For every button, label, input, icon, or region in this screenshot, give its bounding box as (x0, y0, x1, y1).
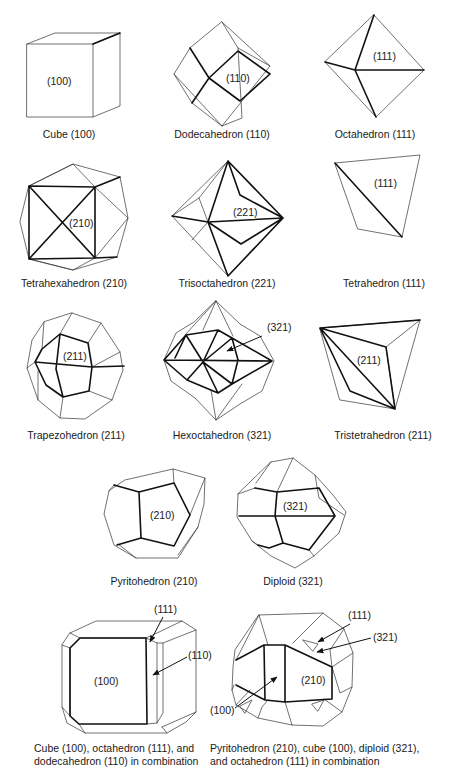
hexoctahedron-face-label: (321) (267, 321, 292, 333)
caption-combo-cube: Cube (100), octahedron (111), and dodeca… (34, 742, 198, 768)
combo-cube-edge-label: (110) (188, 649, 212, 661)
octahedron-drawing: (111) (325, 15, 424, 117)
caption-diploid: Diploid (321) (263, 575, 323, 588)
tetrahedron-face-label: (111) (374, 177, 397, 189)
diploid-drawing: (321) (237, 458, 346, 568)
tetrahedron-drawing: (111) (335, 155, 420, 237)
crystal-forms-diagram: (100) (110) (111) (210) (221) (111) (0, 0, 449, 772)
diploid-face-label: (321) (283, 500, 308, 512)
trisoctahedron-drawing: (221) (172, 161, 283, 276)
combo-pyrito-diploid-arrow (317, 638, 371, 652)
combo-pyrito-drawing: (210) (111) (321) (100) (210, 609, 398, 726)
hexoctahedron-drawing: (321) (164, 301, 292, 420)
caption-cube: Cube (100) (43, 128, 96, 141)
combo-pyrito-cube-arrow (235, 677, 277, 708)
combo-cube-drawing: (100) (111) (110) (62, 603, 212, 733)
caption-tetrahedron: Tetrahedron (111) (343, 277, 425, 290)
pyritohedron-face-label: (210) (150, 509, 175, 521)
combo-cube-corner-label: (111) (154, 603, 177, 615)
combo-cube-edge-arrow (153, 657, 187, 675)
octahedron-face-label: (111) (373, 50, 396, 62)
dodecahedron-drawing: (110) (174, 22, 270, 126)
caption-octahedron: Octahedron (111) (335, 128, 416, 141)
cube-drawing: (100) (27, 33, 120, 117)
trisoctahedron-face-label: (221) (233, 206, 258, 218)
caption-trisoctahedron: Trisoctahedron (221) (178, 277, 275, 290)
tristetrahedron-face-label: (211) (357, 354, 381, 366)
dodecahedron-face-label: (110) (226, 72, 250, 84)
caption-combo-pyrito-line-2: and octahedron (111) in combination (210, 755, 420, 768)
tetrahexahedron-drawing: (210) (20, 164, 128, 270)
trapezohedron-face-label: (211) (63, 350, 87, 362)
combo-pyrito-cube-label: (100) (210, 704, 235, 716)
caption-combo-pyrito: Pyritohedron (210), cube (100), diploid … (210, 742, 420, 768)
trapezohedron-drawing: (211) (27, 313, 124, 419)
caption-tristetrahedron: Tristetrahedron (211) (334, 429, 431, 442)
caption-dodecahedron: Dodecahedron (110) (174, 128, 270, 141)
caption-tetrahexahedron: Tetrahexahedron (210) (21, 277, 127, 290)
caption-trapezohedron: Trapezohedron (211) (27, 429, 124, 442)
tetrahexahedron-face-label: (210) (69, 217, 94, 229)
caption-hexoctahedron: Hexoctahedron (321) (173, 429, 272, 442)
pyritohedron-drawing: (210) (104, 469, 205, 558)
cube-face-label: (100) (47, 75, 72, 87)
combo-pyrito-octa-label: (111) (348, 609, 371, 621)
combo-pyrito-main-label: (210) (301, 674, 326, 686)
tristetrahedron-drawing: (211) (320, 320, 420, 409)
caption-combo-cube-line-1: Cube (100), octahedron (111), and (34, 742, 198, 755)
caption-combo-cube-line-2: dodecahedron (110) in combination (34, 755, 198, 768)
combo-pyrito-diploid-label: (321) (373, 631, 398, 643)
combo-cube-main-label: (100) (94, 675, 119, 687)
caption-combo-pyrito-line-1: Pyritohedron (210), cube (100), diploid … (210, 742, 420, 755)
caption-pyritohedron: Pyritohedron (210) (111, 575, 198, 588)
